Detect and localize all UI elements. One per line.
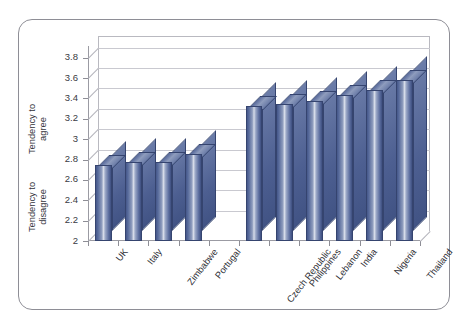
y-axis-tick [83,221,88,222]
x-axis-tick [148,241,149,246]
y-axis-tick [83,200,88,201]
bar-front-face [155,162,172,241]
x-axis-category-label: Italy [146,247,164,267]
bar [185,144,202,241]
y-axis-label: 3.6 [44,73,78,83]
x-axis-tick [239,241,240,246]
axis-title-agree: Tendency toagree [27,93,49,165]
x-axis-category-label: UK [114,247,130,263]
bar-front-face [246,106,263,241]
x-axis-tick [269,241,270,246]
x-axis-category-label: Zimbabwe [186,247,220,287]
bar-front-face [125,162,142,241]
gridline [98,68,430,69]
floor-depth-edge [420,231,431,242]
y-axis-label: 2.2 [44,215,78,225]
bar-side-face [413,56,427,231]
x-axis-tick [360,241,361,246]
y-axis-tick [83,78,88,79]
x-axis-tick [209,241,210,246]
bar [276,94,293,241]
axis-title-disagree: Tendency todisagree [27,171,49,243]
y-axis-label: 2.6 [44,174,78,184]
x-axis-category-label: Czech Republic [285,247,333,304]
y-axis-tick [83,119,88,120]
bar-chart: 22.22.42.62.833.23.43.63.8Tendency toagr… [0,0,470,332]
bar [246,96,263,241]
bar [155,152,172,241]
bar-front-face [276,104,293,241]
bar-front-face [306,101,323,241]
y-axis-label: 2.4 [44,195,78,205]
bar-front-face [336,95,353,241]
x-axis-tick [299,241,300,246]
x-axis-category-label: Nigeria [392,247,418,276]
x-axis-category-label: Thailand [425,247,455,281]
y-axis-label: 3 [44,134,78,144]
y-axis-label: 3.8 [44,52,78,62]
x-axis-tick [390,241,391,246]
y-axis-tick [83,58,88,59]
x-axis-tick [179,241,180,246]
bar [95,155,112,241]
y-axis-label: 3.4 [44,93,78,103]
x-axis-tick [88,241,89,246]
y-axis-label: 2 [44,236,78,246]
x-axis-tick [118,241,119,246]
y-axis-label: 3.2 [44,113,78,123]
y-axis-tick [83,98,88,99]
bar-front-face [95,165,112,241]
bar [366,80,383,241]
bar [396,70,413,241]
y-axis-tick [83,180,88,181]
y-axis-tick [83,139,88,140]
y-axis-tick [83,160,88,161]
y-axis-label: 2.8 [44,154,78,164]
bar-front-face [396,80,413,241]
bar-front-face [366,90,383,241]
bar-front-face [185,154,202,241]
bar [125,152,142,241]
gridline [98,48,430,49]
bar-side-face [112,140,126,231]
bar [306,91,323,241]
bar [336,85,353,241]
x-axis-tick [329,241,330,246]
